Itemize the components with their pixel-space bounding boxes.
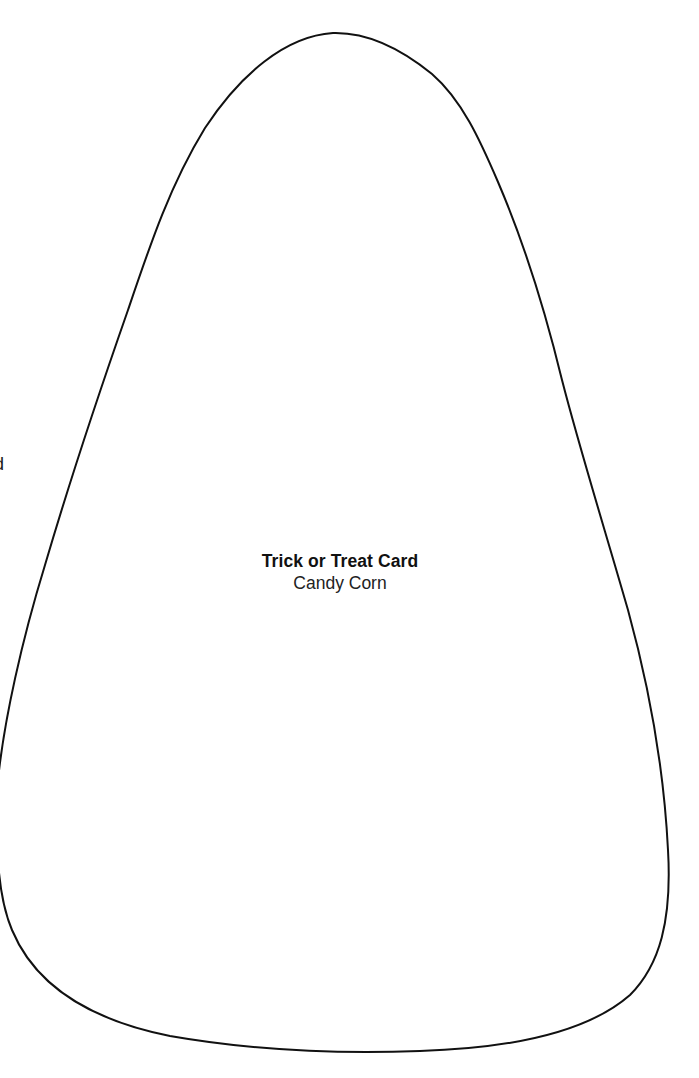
card-subtitle: Candy Corn <box>190 572 490 594</box>
candy-corn-outline-shape <box>0 0 699 1078</box>
clipped-edge-text: d <box>0 455 4 473</box>
card-title: Trick or Treat Card <box>190 551 490 572</box>
card-label: Trick or Treat Card Candy Corn <box>190 551 490 594</box>
printable-template-page: d Trick or Treat Card Candy Corn <box>0 0 699 1078</box>
